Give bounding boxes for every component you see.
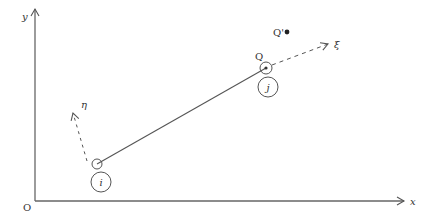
eta-label: η <box>81 99 87 110</box>
x-axis-label: x <box>410 196 416 207</box>
y-axis-label: y <box>21 11 28 22</box>
node-i-label-circle: i <box>91 172 111 192</box>
element-line <box>97 68 266 164</box>
node-j-label: j <box>264 82 269 93</box>
point-q-prime-dot <box>285 30 290 35</box>
node-j-marker <box>260 62 272 74</box>
eta-axis <box>73 113 87 161</box>
node-i-label: i <box>99 177 102 188</box>
xi-axis <box>272 44 328 65</box>
node-j-label-circle: j <box>258 77 278 97</box>
point-q-prime-label: Q' <box>273 27 284 38</box>
beam-element-diagram: y x O i Q j ξ η Q' <box>0 0 435 220</box>
origin-label: O <box>23 202 31 213</box>
xi-label: ξ <box>334 39 340 50</box>
point-q-label: Q <box>255 51 263 62</box>
